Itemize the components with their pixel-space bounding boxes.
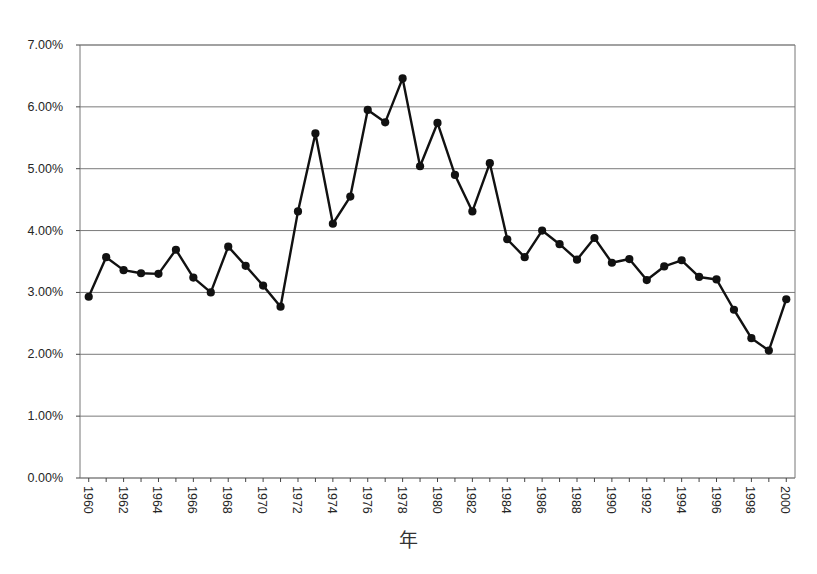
x-axis-tick-label: 1974 bbox=[325, 486, 339, 514]
x-axis-tick-label: 1998 bbox=[743, 486, 757, 514]
x-axis-tick-label: 1996 bbox=[709, 486, 723, 514]
x-axis-tick-label: 1990 bbox=[604, 486, 618, 514]
x-axis-tick-label: 1960 bbox=[81, 486, 95, 514]
x-axis-tick-label: 1966 bbox=[185, 486, 199, 514]
x-axis-tick-label: 1994 bbox=[674, 486, 688, 514]
x-axis-title: 年 bbox=[0, 525, 817, 552]
x-axis-tick-label: 1962 bbox=[116, 486, 130, 514]
x-axis-tick-label: 1982 bbox=[464, 486, 478, 514]
x-axis-tick-label: 1968 bbox=[220, 486, 234, 514]
x-axis-tick-label: 1972 bbox=[290, 486, 304, 514]
x-axis-tick-label: 1970 bbox=[255, 486, 269, 514]
chart-container: 7.00%6.00%5.00%4.00%3.00%2.00%1.00%0.00%… bbox=[0, 0, 817, 574]
x-axis-tick-label: 1984 bbox=[499, 486, 513, 514]
x-axis-tick-label: 1988 bbox=[569, 486, 583, 514]
x-axis-tick-label: 1992 bbox=[639, 486, 653, 514]
x-axis-tick-label: 1976 bbox=[360, 486, 374, 514]
x-axis-tick-labels: 1960196219641966196819701972197419761978… bbox=[0, 0, 817, 574]
x-axis-tick-label: 1980 bbox=[430, 486, 444, 514]
x-axis-tick-label: 2000 bbox=[778, 486, 792, 514]
x-axis-tick-label: 1964 bbox=[150, 486, 164, 514]
x-axis-tick-label: 1986 bbox=[534, 486, 548, 514]
x-axis-tick-label: 1978 bbox=[395, 486, 409, 514]
